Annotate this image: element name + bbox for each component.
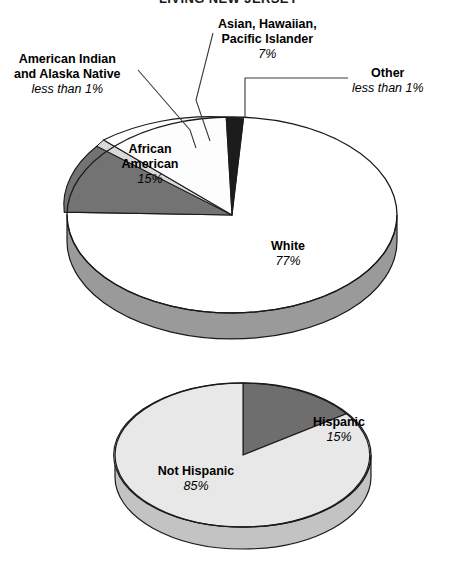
callout-other: Other less than 1%: [352, 66, 424, 96]
slice-label-african-american: African American 15%: [104, 142, 196, 186]
slice-label-white: White 77%: [240, 239, 336, 269]
slice-label-african-american-value: 15%: [104, 172, 196, 187]
slice-label-african-american-line2: American: [104, 157, 196, 172]
chart-root: LIVING NEW JERSEY: [0, 0, 457, 572]
callout-asian-value: 7%: [218, 47, 317, 62]
slice-label-white-value: 77%: [240, 254, 336, 269]
slice-label-white-line1: White: [240, 239, 336, 254]
race-pie-side-wall: [67, 215, 397, 339]
slice-label-not-hispanic-value: 85%: [140, 479, 252, 494]
slice-label-hispanic-line1: Hispanic: [294, 415, 384, 430]
callout-asian-line2: Pacific Islander: [218, 32, 317, 47]
leader-line-other: [245, 78, 348, 117]
callout-asian: Asian, Hawaiian, Pacific Islander 7%: [218, 17, 317, 61]
callout-american-indian-line1: American Indian: [14, 52, 121, 67]
callout-american-indian: American Indian and Alaska Native less t…: [14, 52, 121, 96]
slice-label-not-hispanic: Not Hispanic 85%: [140, 464, 252, 494]
slice-label-hispanic-value: 15%: [294, 430, 384, 445]
callout-other-value: less than 1%: [352, 81, 424, 96]
callout-asian-line1: Asian, Hawaiian,: [218, 17, 317, 32]
slice-label-african-american-line1: African: [104, 142, 196, 157]
slice-label-not-hispanic-line1: Not Hispanic: [140, 464, 252, 479]
callout-american-indian-value: less than 1%: [14, 82, 121, 97]
callout-american-indian-line2: and Alaska Native: [14, 67, 121, 82]
callout-other-line1: Other: [352, 66, 424, 81]
slice-label-hispanic: Hispanic 15%: [294, 415, 384, 445]
